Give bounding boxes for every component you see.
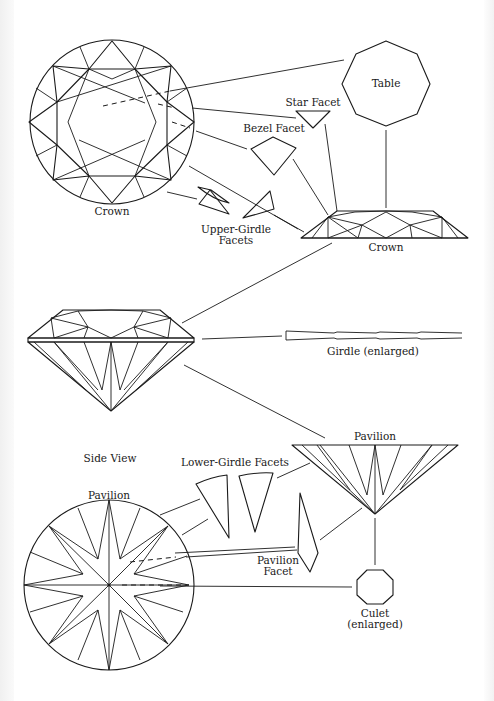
leader-pavilion-side (184, 365, 325, 438)
leader-star-down (325, 124, 337, 211)
crown-side-label: Crown (368, 241, 403, 253)
leader-star (192, 108, 296, 118)
leader-upper-girdle (167, 192, 197, 199)
leader-culet-left (160, 586, 352, 587)
star-facet-label: Star Facet (285, 96, 341, 108)
culet-shape (357, 570, 393, 604)
leader-lower-girdle-left-1 (160, 499, 200, 515)
side-view-label: Side View (84, 452, 137, 464)
crown-top-label: Crown (94, 205, 129, 217)
bezel-facet-label: Bezel Facet (243, 122, 305, 134)
upper-girdle-facet-b (243, 191, 274, 218)
leader-bezel (196, 131, 247, 149)
leader-upper-girdle-right (274, 215, 304, 232)
girdle-label: Girdle (enlarged) (327, 345, 419, 357)
bezel-facet-shape (251, 137, 296, 175)
leader-pavilion-facet (320, 508, 362, 540)
lower-girdle-facet-2 (239, 473, 273, 532)
girdle-enlarged (286, 331, 462, 340)
pavilion-bottom-view (24, 500, 194, 670)
lower-girdle-facet-1 (196, 475, 229, 538)
pavilion-side-view (292, 445, 458, 514)
leader-girdle (202, 336, 282, 339)
upper-girdle-label-2: Facets (219, 234, 254, 246)
lower-girdle-label: Lower-Girdle Facets (181, 456, 289, 468)
leader-crown-side (182, 243, 332, 323)
pavilion-facet-shape (298, 493, 318, 572)
crown-top-view (29, 40, 194, 204)
diamond-diagram: Crown Table Star Facet Bezel Facet Upper… (0, 0, 494, 701)
leader-lower-girdle-left-2 (182, 519, 208, 535)
table-label: Table (372, 77, 401, 89)
leader-pavilion-facet-left (175, 547, 295, 553)
pavilion-side-label: Pavilion (354, 430, 396, 442)
leader-bezel-down (293, 159, 328, 215)
pavilion-facet-label-2: Facet (263, 565, 293, 577)
leader-table (170, 60, 344, 91)
culet-label-2: (enlarged) (347, 618, 402, 630)
pavilion-bottom-label: Pavilion (88, 489, 130, 501)
crown-side-view (301, 211, 468, 238)
side-view-diamond (28, 310, 194, 411)
